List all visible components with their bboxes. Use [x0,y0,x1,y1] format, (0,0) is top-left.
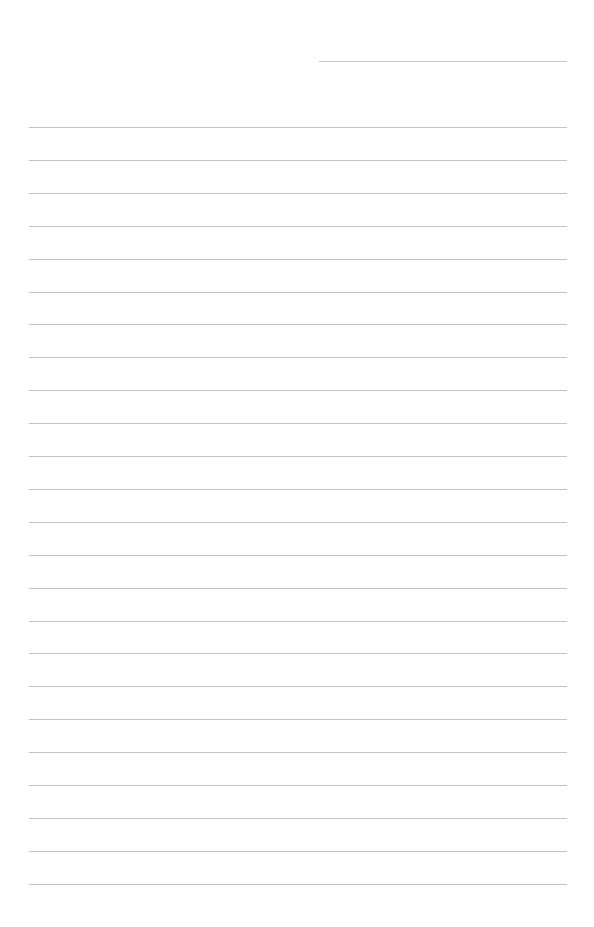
ruled-line [29,193,567,194]
ruled-line [29,851,567,852]
ruled-line [29,884,567,885]
ruled-line [29,423,567,424]
ruled-line [29,324,567,325]
ruled-line [29,522,567,523]
ruled-line [29,752,567,753]
ruled-line [29,226,567,227]
header-date-line [319,61,567,62]
ruled-line [29,489,567,490]
ruled-line [29,818,567,819]
ruled-line [29,259,567,260]
ruled-line [29,292,567,293]
ruled-line [29,588,567,589]
ruled-line [29,719,567,720]
ruled-line [29,785,567,786]
ruled-line [29,686,567,687]
ruled-line [29,621,567,622]
ruled-line [29,456,567,457]
ruled-line [29,127,567,128]
ruled-line [29,390,567,391]
ruled-line [29,555,567,556]
ruled-line [29,653,567,654]
ruled-page [0,0,594,927]
ruled-line [29,357,567,358]
ruled-line [29,160,567,161]
